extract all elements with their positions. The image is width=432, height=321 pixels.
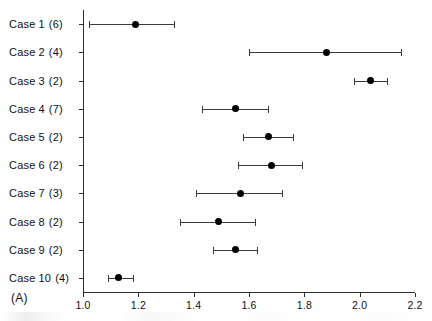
error-bar-cap-high bbox=[282, 190, 283, 197]
data-point-marker bbox=[132, 21, 139, 28]
y-axis-tick bbox=[79, 24, 84, 25]
category-label-word: Case bbox=[9, 75, 35, 87]
panel-label: (A) bbox=[11, 291, 28, 305]
category-label-index: 8 bbox=[38, 216, 44, 228]
category-label-count: (2) bbox=[49, 159, 63, 171]
x-axis-tick bbox=[83, 293, 84, 297]
category-label-word: Case bbox=[9, 46, 35, 58]
category-label-word: Case bbox=[9, 244, 35, 256]
x-axis-tick-label: 1.6 bbox=[229, 299, 269, 311]
x-axis-tick bbox=[194, 293, 195, 297]
category-label: Case4(7) bbox=[9, 103, 83, 115]
y-axis-tick bbox=[79, 109, 84, 110]
category-label-index: 3 bbox=[38, 75, 44, 87]
error-bar-cap-high bbox=[293, 134, 294, 141]
error-bar-cap-high bbox=[255, 219, 256, 226]
x-axis-tick bbox=[360, 293, 361, 297]
category-label-word: Case bbox=[9, 272, 35, 284]
category-label: Case8(2) bbox=[9, 216, 83, 228]
x-axis-tick bbox=[138, 293, 139, 297]
category-label-count: (3) bbox=[49, 187, 63, 199]
scan-artifact bbox=[0, 312, 432, 321]
category-label: Case3(2) bbox=[9, 75, 83, 87]
data-point-marker bbox=[237, 190, 244, 197]
category-label: Case7(3) bbox=[9, 187, 83, 199]
category-label-word: Case bbox=[9, 187, 35, 199]
x-axis-tick-label: 1.2 bbox=[118, 299, 158, 311]
error-bar-cap-low bbox=[89, 21, 90, 28]
category-label-word: Case bbox=[9, 131, 35, 143]
error-bar-cap-high bbox=[133, 275, 134, 282]
category-label-word: Case bbox=[9, 103, 35, 115]
x-axis-tick bbox=[415, 293, 416, 297]
error-bar-cap-high bbox=[174, 21, 175, 28]
y-axis-tick bbox=[79, 81, 84, 82]
x-axis-tick-label: 2.2 bbox=[395, 299, 432, 311]
category-label-index: 2 bbox=[38, 46, 44, 58]
category-label: Case2(4) bbox=[9, 46, 83, 58]
category-label: Case10(4) bbox=[9, 272, 83, 284]
error-bar-cap-low bbox=[196, 190, 197, 197]
data-point-marker bbox=[115, 274, 122, 281]
data-point-marker bbox=[265, 133, 272, 140]
error-bar-cap-high bbox=[302, 162, 303, 169]
category-label: Case9(2) bbox=[9, 244, 83, 256]
y-axis-tick bbox=[79, 52, 84, 53]
category-label-index: 1 bbox=[38, 18, 44, 30]
data-point-marker bbox=[232, 246, 239, 253]
x-axis-tick-label: 2.0 bbox=[340, 299, 380, 311]
y-axis-tick bbox=[79, 278, 84, 279]
category-label-word: Case bbox=[9, 18, 35, 30]
x-axis-tick bbox=[249, 293, 250, 297]
error-bar-cap-low bbox=[202, 106, 203, 113]
data-point-marker bbox=[215, 218, 222, 225]
category-label-index: 10 bbox=[38, 272, 51, 284]
error-bar-cap-high bbox=[257, 247, 258, 254]
category-label-count: (2) bbox=[49, 216, 63, 228]
error-bar-cap-low bbox=[243, 134, 244, 141]
error-bar-cap-high bbox=[387, 78, 388, 85]
category-label-word: Case bbox=[9, 159, 35, 171]
plot-area: 1.01.21.41.61.82.02.2 bbox=[83, 10, 415, 292]
x-axis-tick-label: 1.0 bbox=[63, 299, 103, 311]
category-label-index: 4 bbox=[38, 103, 44, 115]
error-bar-cap-low bbox=[249, 49, 250, 56]
error-bar-cap-high bbox=[268, 106, 269, 113]
category-label-word: Case bbox=[9, 216, 35, 228]
data-point-marker bbox=[232, 105, 239, 112]
category-label-count: (2) bbox=[49, 75, 63, 87]
category-axis-labels: Case1(6)Case2(4)Case3(2)Case4(7)Case5(2)… bbox=[9, 0, 83, 321]
category-label-count: (4) bbox=[55, 272, 69, 284]
data-point-marker bbox=[367, 77, 374, 84]
data-point-marker bbox=[268, 162, 275, 169]
y-axis-tick bbox=[79, 250, 84, 251]
category-label-count: (4) bbox=[49, 46, 63, 58]
x-axis-tick-label: 1.4 bbox=[174, 299, 214, 311]
x-axis-tick bbox=[304, 293, 305, 297]
category-label: Case5(2) bbox=[9, 131, 83, 143]
y-axis-tick bbox=[79, 165, 84, 166]
y-axis-tick bbox=[79, 137, 84, 138]
data-point-marker bbox=[323, 49, 330, 56]
category-label-count: (2) bbox=[49, 131, 63, 143]
category-label: Case1(6) bbox=[9, 18, 83, 30]
forest-plot-figure: Case1(6)Case2(4)Case3(2)Case4(7)Case5(2)… bbox=[0, 0, 432, 321]
category-label-count: (6) bbox=[49, 18, 63, 30]
category-label-index: 5 bbox=[38, 131, 44, 143]
category-label-index: 6 bbox=[38, 159, 44, 171]
category-label-count: (2) bbox=[49, 244, 63, 256]
x-axis-tick-label: 1.8 bbox=[284, 299, 324, 311]
category-label-index: 9 bbox=[38, 244, 44, 256]
error-bar-cap-high bbox=[401, 49, 402, 56]
y-axis-tick bbox=[79, 193, 84, 194]
category-label-count: (7) bbox=[49, 103, 63, 115]
error-bar-cap-low bbox=[108, 275, 109, 282]
error-bar-cap-low bbox=[180, 219, 181, 226]
y-axis-tick bbox=[79, 222, 84, 223]
category-label: Case6(2) bbox=[9, 159, 83, 171]
category-label-index: 7 bbox=[38, 187, 44, 199]
error-bar-cap-low bbox=[354, 78, 355, 85]
error-bar-cap-low bbox=[238, 162, 239, 169]
error-bar-cap-low bbox=[213, 247, 214, 254]
